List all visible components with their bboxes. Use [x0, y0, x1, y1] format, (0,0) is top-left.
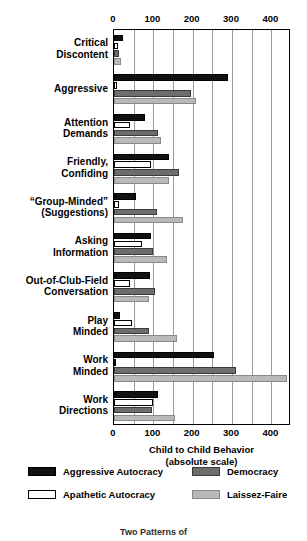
bar: [114, 201, 119, 208]
x-tick-label: 100: [144, 13, 160, 25]
category-label: “Group-Minded”(Suggestions): [0, 196, 108, 219]
category-label-line: (Suggestions): [0, 207, 108, 219]
bar: [114, 415, 175, 422]
bar: [114, 98, 196, 105]
category-label-line: Discontent: [0, 49, 108, 61]
white-swatch: [28, 490, 56, 499]
legend-label: Democracy: [227, 466, 278, 477]
bar: [114, 359, 116, 366]
category-label-line: Out-of-Club-Field: [0, 275, 108, 287]
category-label: AskingInformation: [0, 235, 108, 258]
bar: [114, 367, 236, 374]
category-label-line: Directions: [0, 405, 108, 417]
category-label-line: Information: [0, 247, 108, 259]
bar: [114, 209, 157, 216]
bar: [114, 352, 214, 359]
bar: [114, 74, 228, 81]
category-label: CriticalDiscontent: [0, 37, 108, 60]
bar: [114, 256, 167, 263]
category-label-line: Conversation: [0, 286, 108, 298]
top-axis: 0100200300400: [113, 13, 290, 27]
footer-note: Two Patterns of: [0, 527, 307, 541]
bar: [114, 177, 169, 184]
bar: [114, 137, 161, 144]
x-tick-label: 300: [223, 427, 239, 439]
bar: [114, 161, 151, 168]
category-label: AttentionDemands: [0, 117, 108, 140]
bars-container: [114, 30, 289, 424]
legend-label: Aggressive Autocracy: [63, 466, 163, 477]
category-label-line: Friendly,: [0, 156, 108, 168]
category-label-line: Work: [0, 394, 108, 406]
light-gray-swatch: [192, 490, 220, 499]
category-label: Aggressive: [0, 83, 108, 95]
bar: [114, 312, 120, 319]
bar: [114, 272, 150, 279]
x-tick-label: 200: [184, 13, 200, 25]
bar: [114, 391, 158, 398]
bottom-axis: 0100200300400: [113, 427, 290, 441]
category-label-line: Work: [0, 354, 108, 366]
legend-label: Apathetic Autocracy: [63, 489, 155, 500]
legend-item[interactable]: Aggressive Autocracy: [28, 466, 163, 477]
legend-item[interactable]: Laissez-Faire: [192, 489, 287, 500]
x-tick-label: 100: [144, 427, 160, 439]
bar: [114, 122, 130, 129]
category-label-line: Demands: [0, 128, 108, 140]
legend-label: Laissez-Faire: [227, 489, 287, 500]
category-label-line: “Group-Minded”: [0, 196, 108, 208]
bar: [114, 241, 142, 248]
category-label: WorkDirections: [0, 394, 108, 417]
legend-item[interactable]: Democracy: [192, 466, 278, 477]
legend-item[interactable]: Apathetic Autocracy: [28, 489, 155, 500]
bar: [114, 58, 121, 65]
category-label-line: Minded: [0, 326, 108, 338]
bar: [114, 296, 149, 303]
bar: [114, 217, 183, 224]
plot-area: [113, 29, 290, 425]
dark-gray-swatch: [192, 467, 220, 476]
legend: Aggressive AutocracyApathetic AutocracyD…: [0, 466, 307, 512]
bar: [114, 375, 287, 382]
category-label-line: Asking: [0, 235, 108, 247]
category-label-line: Attention: [0, 117, 108, 129]
bar: [114, 169, 179, 176]
bar: [114, 114, 145, 121]
category-label: WorkMinded: [0, 354, 108, 377]
bar: [114, 35, 123, 42]
bar: [114, 130, 158, 137]
x-tick-label: 300: [223, 13, 239, 25]
x-tick-label: 0: [110, 13, 115, 25]
black-swatch: [28, 467, 56, 476]
bar: [114, 90, 191, 97]
category-label-line: Critical: [0, 37, 108, 49]
category-label: Friendly,Confiding: [0, 156, 108, 179]
category-label-line: Play: [0, 315, 108, 327]
x-tick-label: 0: [110, 427, 115, 439]
bar: [114, 43, 118, 50]
category-label-line: Confiding: [0, 168, 108, 180]
bar: [114, 193, 136, 200]
bar: [114, 407, 152, 414]
x-axis-title: Child to Child Behavior (absolute scale): [113, 444, 290, 467]
x-axis-title-main: Child to Child Behavior: [149, 444, 254, 455]
bar: [114, 280, 130, 287]
category-label: PlayMinded: [0, 315, 108, 338]
category-label-line: Aggressive: [0, 83, 108, 95]
bar: [114, 288, 155, 295]
bar: [114, 335, 177, 342]
bar: [114, 320, 132, 327]
bar-chart: 0100200300400 CriticalDiscontentAggressi…: [0, 0, 307, 541]
x-tick-label: 400: [262, 13, 278, 25]
category-label: Out-of-Club-FieldConversation: [0, 275, 108, 298]
bar: [114, 50, 119, 57]
bar: [114, 82, 117, 89]
bar: [114, 154, 169, 161]
bar: [114, 328, 149, 335]
x-tick-label: 400: [262, 427, 278, 439]
bar: [114, 233, 151, 240]
category-label-line: Minded: [0, 366, 108, 378]
bar: [114, 248, 153, 255]
bar: [114, 399, 153, 406]
x-tick-label: 200: [184, 427, 200, 439]
